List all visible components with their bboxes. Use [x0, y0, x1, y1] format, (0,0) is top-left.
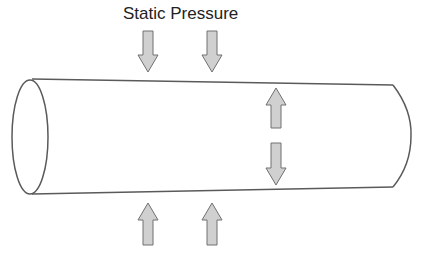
pressure-arrows — [138, 31, 286, 245]
tube — [12, 79, 411, 194]
arrow-down-icon — [266, 143, 286, 185]
arrow-up-icon — [138, 203, 158, 245]
pipe-diagram — [0, 0, 423, 263]
tube-right-end — [393, 85, 411, 187]
tube-top-edge — [32, 79, 393, 85]
tube-bottom-edge — [32, 187, 393, 194]
arrow-down-icon — [138, 31, 158, 72]
arrow-up-icon — [266, 88, 286, 128]
tube-left-opening — [12, 80, 48, 194]
arrow-up-icon — [202, 203, 222, 245]
arrow-down-icon — [202, 31, 222, 72]
